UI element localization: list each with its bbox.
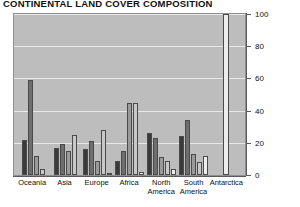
- x-axis-label: Oceania: [16, 179, 48, 196]
- bar: [28, 80, 33, 175]
- y-axis-title: Land cover composition (per cent): [272, 13, 300, 176]
- bar: [179, 136, 184, 175]
- bar-group: [17, 14, 49, 175]
- bar: [185, 120, 190, 175]
- chart-container: CONTINENTAL LAND COVER COMPOSITION 02040…: [0, 0, 300, 207]
- y-tick-label: 100: [255, 10, 268, 19]
- bar: [22, 140, 27, 175]
- y-tick: [247, 175, 251, 176]
- bar: [165, 161, 170, 175]
- bar-group: [210, 14, 242, 175]
- bar: [153, 138, 158, 175]
- x-axis-label: Antarctica: [210, 179, 243, 196]
- bar-group: [113, 14, 145, 175]
- bar: [147, 133, 152, 175]
- y-tick: [247, 78, 251, 79]
- y-tick: [247, 46, 251, 47]
- bar: [101, 130, 106, 175]
- bar: [121, 151, 126, 175]
- bar-group: [81, 14, 113, 175]
- bar: [107, 173, 112, 175]
- bar: [223, 14, 229, 175]
- x-axis-label: Europe: [81, 179, 113, 196]
- bar-group: [49, 14, 81, 175]
- bar: [40, 169, 45, 175]
- bars-layer: [14, 14, 245, 175]
- bar-group: [146, 14, 178, 175]
- bar: [139, 172, 144, 175]
- y-tick-label: 40: [255, 106, 264, 115]
- bar: [159, 157, 164, 175]
- bar: [171, 169, 176, 175]
- bar-group: [178, 14, 210, 175]
- bar: [133, 103, 138, 175]
- bar: [127, 103, 132, 175]
- bar: [191, 154, 196, 175]
- bar: [197, 162, 202, 175]
- y-tick-label: 80: [255, 42, 264, 51]
- x-axis-label: NorthAmerica: [145, 179, 177, 196]
- bar: [89, 141, 94, 175]
- y-tick: [247, 111, 251, 112]
- bar: [115, 161, 120, 175]
- chart-title: CONTINENTAL LAND COVER COMPOSITION: [3, 0, 293, 9]
- bar: [54, 148, 59, 175]
- x-axis-labels: OceaniaAsiaEuropeAfricaNorthAmericaSouth…: [13, 179, 246, 196]
- bar: [72, 135, 77, 175]
- bar: [60, 144, 65, 175]
- y-tick: [247, 143, 251, 144]
- y-tick-label: 0: [255, 171, 259, 180]
- y-tick-label: 60: [255, 74, 264, 83]
- bar: [66, 151, 71, 175]
- y-axis: 020406080100: [246, 13, 253, 176]
- bar: [203, 156, 208, 175]
- x-axis-label: Africa: [113, 179, 145, 196]
- x-axis: [13, 176, 246, 177]
- bar: [83, 149, 88, 175]
- bar: [34, 156, 39, 175]
- plot-area: [13, 13, 246, 176]
- y-tick-label: 20: [255, 138, 264, 147]
- x-axis-label: Asia: [48, 179, 80, 196]
- bar: [95, 161, 100, 175]
- y-tick: [247, 14, 251, 15]
- x-axis-label: SouthAmerica: [177, 179, 209, 196]
